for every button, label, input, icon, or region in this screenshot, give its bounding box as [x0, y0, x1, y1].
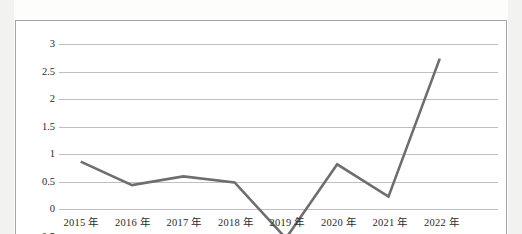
x-axis-tick-label: 2017 年 [167, 218, 202, 229]
line-series-svg [16, 21, 506, 234]
gridline [59, 127, 498, 128]
page-margin-left [0, 0, 14, 234]
x-axis-tick-label: 2016 年 [115, 218, 150, 229]
y-axis-tick-label: 1 [19, 149, 55, 160]
y-axis-tick-label: 1.5 [19, 121, 55, 132]
y-axis-tick-label: 0.5 [19, 176, 55, 187]
plot-frame: 32.521.510.50-0.5 2015 年2016 年2017 年2018… [15, 20, 507, 234]
x-axis-tick-label: 2022 年 [424, 218, 459, 229]
line-series-path [81, 59, 440, 234]
plot-area: 32.521.510.50-0.5 2015 年2016 年2017 年2018… [16, 21, 506, 234]
gridline [59, 72, 498, 73]
gridline [59, 99, 498, 100]
y-axis-tick-label: 0 [19, 204, 55, 215]
y-axis-tick-label: 2 [19, 94, 55, 105]
gridline [59, 209, 498, 210]
x-axis-tick-label: 2021 年 [373, 218, 408, 229]
gridline [59, 154, 498, 155]
gridline [59, 44, 498, 45]
x-axis-tick-label: 2018 年 [218, 218, 253, 229]
y-axis-tick-label: 3 [19, 39, 55, 50]
page-margin-right [508, 0, 522, 234]
chart-figure: 32.521.510.50-0.5 2015 年2016 年2017 年2018… [0, 0, 522, 234]
x-axis-tick-label: 2020 年 [321, 218, 356, 229]
y-axis-tick-label: -0.5 [19, 231, 55, 234]
x-axis-tick-label: 2019 年 [270, 218, 305, 229]
gridline [59, 182, 498, 183]
y-axis-tick-label: 2.5 [19, 66, 55, 77]
x-axis-tick-label: 2015 年 [64, 218, 99, 229]
